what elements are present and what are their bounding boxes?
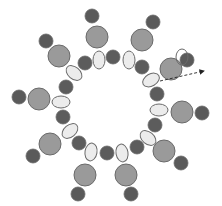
inner-dark-circle bbox=[100, 146, 114, 160]
outer-dark-circle bbox=[85, 9, 99, 23]
outer-dark-circle bbox=[12, 90, 26, 104]
outer-dark-circle bbox=[124, 187, 138, 201]
outer-dark-circle bbox=[39, 34, 53, 48]
inner-dark-circle bbox=[56, 110, 70, 124]
inner-dark-circle bbox=[135, 60, 149, 74]
large-grey-circle bbox=[39, 133, 61, 155]
inner-dark-circle bbox=[106, 50, 120, 64]
light-ellipse bbox=[93, 51, 105, 69]
inner-dark-circle bbox=[59, 80, 73, 94]
large-grey-circle bbox=[153, 140, 175, 162]
large-grey-circle bbox=[74, 164, 96, 186]
inner-dark-circle bbox=[72, 136, 86, 150]
ring-diagram bbox=[0, 0, 222, 206]
large-grey-circle bbox=[115, 164, 137, 186]
large-grey-circle bbox=[28, 88, 50, 110]
inner-dark-circle bbox=[78, 56, 92, 70]
inner-dark-circle bbox=[148, 118, 162, 132]
outer-dark-circle bbox=[195, 106, 209, 120]
outer-dark-circle bbox=[71, 187, 85, 201]
large-grey-circle bbox=[131, 29, 153, 51]
light-ellipse bbox=[52, 96, 70, 108]
large-grey-circles bbox=[28, 26, 193, 186]
large-grey-circle bbox=[48, 45, 70, 67]
outer-dark-circle bbox=[174, 156, 188, 170]
inner-dark-circle bbox=[130, 140, 144, 154]
large-grey-circle bbox=[86, 26, 108, 48]
light-ellipse bbox=[123, 51, 135, 69]
light-ellipse bbox=[115, 143, 130, 163]
large-grey-circle bbox=[160, 58, 182, 80]
light-ellipse bbox=[150, 104, 168, 116]
outer-dark-circle bbox=[146, 15, 160, 29]
large-grey-circle bbox=[171, 101, 193, 123]
outer-dark-circle bbox=[26, 149, 40, 163]
light-ellipses bbox=[52, 51, 168, 163]
inner-dark-circle bbox=[150, 87, 164, 101]
